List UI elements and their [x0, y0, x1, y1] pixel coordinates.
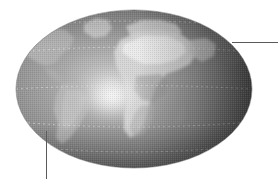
globe-halftone-texture	[16, 10, 252, 168]
callout-leader-line-bottom	[46, 131, 47, 179]
earth-globe	[0, 0, 278, 179]
callout-leader-line-right	[232, 42, 278, 43]
globe-figure	[0, 0, 278, 179]
